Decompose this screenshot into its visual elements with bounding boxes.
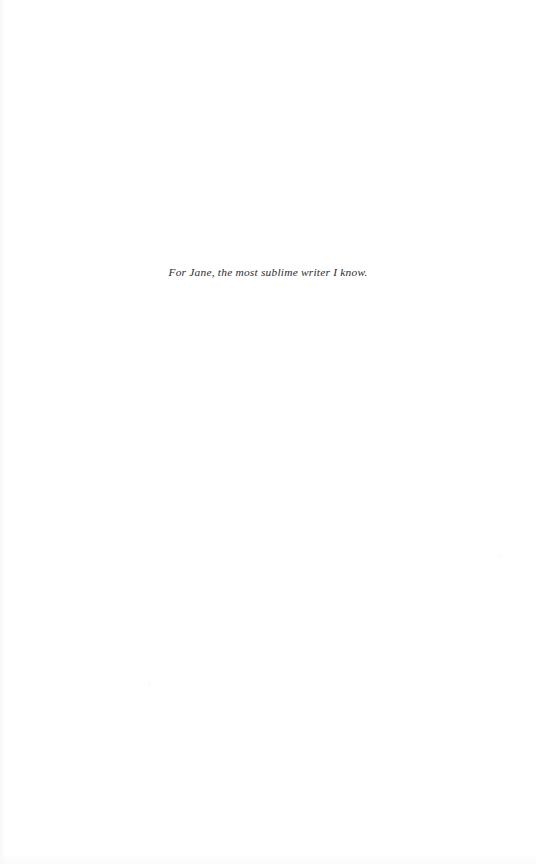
scan-edge-shading-left — [0, 0, 6, 864]
scan-speck — [148, 682, 151, 687]
dedication-block: For Jane, the most sublime writer I know… — [0, 262, 536, 281]
scan-speck — [498, 553, 503, 559]
dedication-page: For Jane, the most sublime writer I know… — [0, 0, 536, 864]
dedication-text: For Jane, the most sublime writer I know… — [169, 263, 368, 281]
scan-edge-shading-bottom — [0, 854, 536, 864]
